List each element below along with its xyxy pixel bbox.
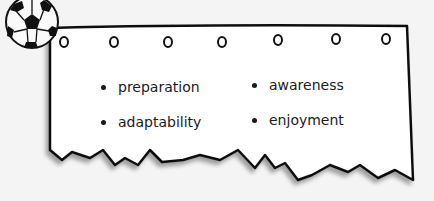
list-item: preparation (99, 77, 201, 112)
list-column-left: preparation adaptability (99, 77, 201, 147)
list-item: adaptability (99, 112, 201, 147)
torn-paper-card (0, 0, 434, 201)
binder-ring (109, 36, 119, 48)
list-item: awareness (250, 75, 344, 110)
binder-ring (163, 36, 173, 48)
binder-ring (59, 36, 69, 48)
binder-ring (273, 34, 283, 46)
binder-ring (331, 33, 341, 45)
binder-ring (381, 33, 391, 45)
list-item: enjoyment (250, 110, 344, 145)
list-column-right: awareness enjoyment (250, 75, 344, 145)
soccer-ball-icon (4, 0, 60, 50)
binder-ring (217, 36, 227, 48)
